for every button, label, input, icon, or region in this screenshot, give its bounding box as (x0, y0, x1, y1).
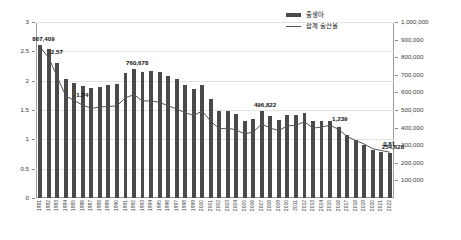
left-axis-tick-label: 2 (0, 78, 29, 84)
bar (328, 121, 332, 198)
x-axis-tick-label: 1993 (140, 200, 145, 211)
x-axis-tick-label: 2018 (353, 200, 358, 211)
bar (260, 111, 264, 198)
bar (294, 115, 298, 198)
bar-swatch-icon (286, 13, 301, 17)
bar (209, 99, 213, 198)
x-axis-tick-label: 2014 (319, 200, 324, 211)
legend-label-births: 출생아 (306, 12, 324, 18)
bar (345, 135, 349, 198)
x-axis-tick-label: 2010 (284, 200, 289, 211)
left-axis-tick-mark (32, 169, 35, 170)
right-axis-tick-label: 200,000 (401, 160, 423, 166)
x-axis-tick-label: 1992 (131, 200, 136, 211)
x-axis-tick-label: 2003 (225, 200, 230, 211)
bar (72, 83, 76, 198)
plot-area: 867,4092.571.74760,678496,8221,2390.8125… (36, 22, 394, 198)
gridline (36, 51, 394, 52)
x-axis-tick-label: 2022 (387, 200, 392, 211)
right-axis-tick-mark (395, 22, 398, 23)
right-axis-tick-label: 500,000 (401, 107, 423, 113)
x-axis-tick-label: 1984 (63, 200, 68, 211)
bar (124, 73, 128, 198)
right-axis-tick-mark (395, 57, 398, 58)
x-axis-tick-label: 1999 (191, 200, 196, 211)
x-axis-tick-label: 2000 (199, 200, 204, 211)
bar (226, 111, 230, 198)
bar (132, 69, 136, 198)
bar (47, 49, 51, 198)
right-axis-tick-mark (395, 92, 398, 93)
right-axis-tick-label: 100,000 (401, 177, 423, 183)
births-data-label: 496,822 (254, 102, 276, 108)
bar (192, 89, 196, 198)
left-axis-tick-mark (32, 22, 35, 23)
right-axis-tick-label: 600,000 (401, 89, 423, 95)
fertility-data-label: 1.74 (76, 92, 88, 98)
right-axis-tick-label: 700,000 (401, 72, 423, 78)
bar (337, 127, 341, 198)
bar (166, 76, 170, 198)
right-axis-tick-mark (395, 40, 398, 41)
bar (251, 119, 255, 199)
bar (81, 86, 85, 198)
right-axis-tick-label: 800,000 (401, 54, 423, 60)
left-axis-tick-label: 1 (0, 136, 29, 142)
x-axis-tick-label: 1996 (165, 200, 170, 211)
bar (55, 63, 59, 198)
bar (158, 72, 162, 198)
x-axis-tick-label: 2001 (208, 200, 213, 211)
x-axis-tick-label: 2013 (310, 200, 315, 211)
x-axis-tick-label: 2011 (293, 200, 298, 211)
bar (285, 115, 289, 198)
x-axis-tick-label: 2009 (276, 200, 281, 211)
x-axis-tick-label: 1981 (37, 200, 42, 211)
bar (268, 116, 272, 198)
bar (379, 152, 383, 198)
right-axis-tick-mark (395, 110, 398, 111)
right-axis-tick-mark (395, 128, 398, 129)
bar (64, 79, 68, 198)
births-data-label: 760,678 (126, 60, 148, 66)
right-axis-tick-label: 300,000 (401, 142, 423, 148)
bar (277, 120, 281, 198)
bar (89, 88, 93, 198)
left-axis-tick-label: 0.5 (0, 166, 29, 172)
fertility-data-label: 2.57 (51, 49, 63, 55)
x-axis-tick-label: 2006 (250, 200, 255, 211)
right-axis-tick-mark (395, 163, 398, 164)
bar (303, 113, 307, 198)
right-axis-tick-mark (395, 145, 398, 146)
x-axis-tick-label: 1994 (148, 200, 153, 211)
x-axis-tick-label: 1987 (88, 200, 93, 211)
bar (141, 72, 145, 198)
left-axis-tick-mark (32, 51, 35, 52)
bar (311, 121, 315, 198)
x-axis-tick-label: 1995 (157, 200, 162, 211)
bar (115, 84, 119, 198)
right-axis-tick-label: 1,000,000 (401, 19, 429, 25)
bar (371, 150, 375, 198)
birth-statistics-chart: 출생아 합계 출산율 867,4092.571.74760,678496,822… (0, 0, 461, 240)
x-axis-tick-label: 1982 (46, 200, 51, 211)
x-axis-tick-label: 1988 (97, 200, 102, 211)
x-axis-tick-label: 1989 (105, 200, 110, 211)
bar (175, 79, 179, 198)
bar (98, 87, 102, 198)
x-axis-tick-label: 2021 (378, 200, 383, 211)
x-axis-tick-label: 1983 (54, 200, 59, 211)
left-axis-tick-mark (32, 139, 35, 140)
bar (388, 153, 392, 198)
births-data-label: 867,409 (32, 36, 54, 42)
bar (217, 111, 221, 198)
fertility-data-label: 1,239 (332, 116, 347, 122)
right-axis-tick-mark (395, 180, 398, 181)
x-axis-tick-label: 2007 (259, 200, 264, 211)
x-axis-tick-label: 2005 (242, 200, 247, 211)
bar (362, 145, 366, 198)
bar (243, 121, 247, 198)
gridline (36, 81, 394, 82)
bar (234, 114, 238, 198)
bar (354, 140, 358, 198)
left-axis-tick-label: 0 (0, 195, 29, 201)
